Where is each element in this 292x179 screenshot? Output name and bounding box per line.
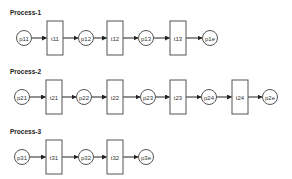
- node-label: p24: [204, 95, 215, 101]
- process-3: Process-3p31t31p32t32p3e: [10, 128, 154, 174]
- node-label: t22: [111, 95, 120, 101]
- place-p22: p22: [77, 90, 92, 105]
- process-label: Process-2: [10, 68, 41, 75]
- petri-net-diagram: Process-1p11t11p12t12p13t13p1eProcess-2p…: [0, 0, 292, 179]
- node-label: p21: [17, 95, 28, 101]
- node-label: p32: [81, 155, 92, 161]
- transition-t12: t12: [107, 21, 123, 55]
- transition-t11: t11: [47, 21, 63, 55]
- transition-t21: t21: [46, 80, 62, 114]
- place-p2e: p2e: [263, 90, 278, 105]
- node-label: p13: [141, 36, 152, 42]
- node-label: t24: [236, 95, 245, 101]
- transition-t31: t31: [46, 140, 62, 174]
- node-label: t32: [111, 155, 120, 161]
- node-label: t12: [111, 36, 120, 42]
- place-p12: p12: [79, 31, 94, 46]
- transition-t13: t13: [170, 21, 186, 55]
- node-label: p11: [19, 36, 29, 42]
- process-2: Process-2p21t21p22t22p23t23p24t24p2e: [10, 68, 278, 114]
- node-label: p22: [79, 95, 90, 101]
- node-label: t23: [174, 95, 183, 101]
- node-label: p23: [143, 95, 154, 101]
- place-p24: p24: [202, 90, 217, 105]
- place-p3e: p3e: [139, 150, 154, 165]
- place-p32: p32: [79, 150, 94, 165]
- place-p31: p31: [15, 150, 30, 165]
- node-label: t11: [51, 36, 60, 42]
- place-p13: p13: [139, 31, 154, 46]
- transition-t32: t32: [107, 140, 123, 174]
- place-p1e: p1e: [203, 31, 218, 46]
- node-label: p12: [81, 36, 92, 42]
- node-label: p1e: [205, 36, 216, 42]
- node-label: t31: [50, 155, 59, 161]
- transition-t22: t22: [107, 80, 123, 114]
- node-label: t13: [174, 36, 183, 42]
- place-p11: p11: [17, 31, 32, 46]
- node-label: p3e: [141, 155, 152, 161]
- process-label: Process-1: [10, 9, 41, 16]
- process-1: Process-1p11t11p12t12p13t13p1e: [10, 9, 218, 55]
- transition-t23: t23: [170, 80, 186, 114]
- transition-t24: t24: [232, 80, 248, 114]
- node-label: t21: [50, 95, 59, 101]
- node-label: p31: [17, 155, 28, 161]
- process-label: Process-3: [10, 128, 41, 135]
- place-p21: p21: [15, 90, 30, 105]
- place-p23: p23: [141, 90, 156, 105]
- node-label: p2e: [265, 95, 276, 101]
